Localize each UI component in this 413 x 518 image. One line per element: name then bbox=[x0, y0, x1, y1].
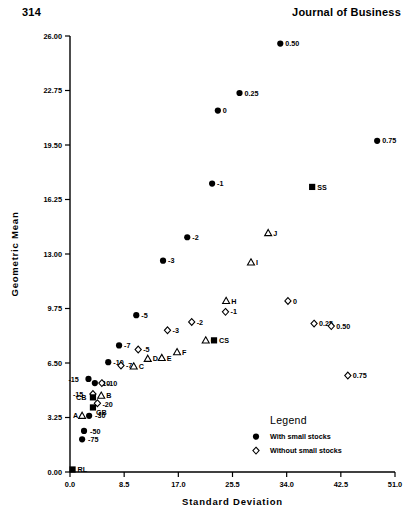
data-point-label: J bbox=[273, 229, 277, 238]
data-point-filled-circle bbox=[277, 40, 283, 46]
data-point-label: -1 bbox=[217, 179, 223, 188]
data-point-open-triangle bbox=[98, 392, 105, 398]
legend-title: Legend bbox=[270, 414, 307, 426]
data-point-filled-circle bbox=[160, 258, 166, 264]
legend-entry-label: With small stocks bbox=[270, 432, 331, 441]
x-tick-label: 51.0 bbox=[388, 480, 402, 489]
data-point-filled-circle bbox=[184, 234, 190, 240]
chart-canvas: 0.003.256.509.7513.0016.2519.5022.7526.0… bbox=[0, 0, 413, 518]
data-point-label: -5 bbox=[141, 311, 147, 320]
data-point-filled-square bbox=[309, 184, 315, 190]
y-tick-label: 16.25 bbox=[44, 195, 63, 204]
data-point-label: 0 bbox=[223, 106, 227, 115]
data-point-open-triangle bbox=[247, 259, 254, 265]
data-point-label: A bbox=[73, 411, 78, 420]
data-point-label: -2 bbox=[197, 318, 203, 327]
y-axis-title: Geometric Mean bbox=[9, 211, 20, 296]
x-tick-label: 17.0 bbox=[171, 480, 185, 489]
y-tick-label: 13.00 bbox=[44, 250, 63, 259]
y-tick-label: 0.00 bbox=[48, 468, 62, 477]
data-point-label: D bbox=[153, 354, 158, 363]
data-point-filled-circle bbox=[105, 359, 111, 365]
data-point-label: CS bbox=[219, 336, 229, 345]
data-point-open-triangle bbox=[144, 355, 151, 361]
data-point-filled-circle bbox=[374, 138, 380, 144]
data-point-filled-circle bbox=[133, 312, 139, 318]
data-point-label: 0.75 bbox=[353, 371, 367, 380]
x-tick-label: 8.5 bbox=[119, 480, 129, 489]
data-point-filled-circle bbox=[79, 436, 85, 442]
x-axis-title: Standard Deviation bbox=[182, 496, 283, 507]
data-point-filled-circle bbox=[236, 90, 242, 96]
data-point-label: B bbox=[106, 391, 111, 400]
data-point-label: C bbox=[139, 362, 144, 371]
data-point-filled-circle bbox=[209, 180, 215, 186]
data-point-label: CB bbox=[76, 393, 86, 402]
x-tick-label: 25.5 bbox=[225, 480, 239, 489]
data-point-label: -10 bbox=[107, 379, 117, 388]
y-tick-label: 22.75 bbox=[44, 86, 63, 95]
scatter-plot: 0.003.256.509.7513.0016.2519.5022.7526.0… bbox=[0, 0, 413, 518]
data-point-filled-circle bbox=[85, 376, 91, 382]
data-point-label: SS bbox=[317, 183, 327, 192]
page-root: 314 Journal of Business 0.003.256.509.75… bbox=[0, 0, 413, 518]
data-point-label: 0.50 bbox=[336, 322, 350, 331]
data-point-open-triangle bbox=[79, 412, 86, 418]
data-point-filled-circle bbox=[81, 428, 87, 434]
y-tick-label: 26.00 bbox=[44, 32, 63, 41]
data-point-label: E bbox=[167, 354, 172, 363]
data-point-open-triangle bbox=[158, 354, 165, 360]
data-point-open-triangle bbox=[223, 297, 230, 303]
y-tick-label: 6.50 bbox=[48, 359, 62, 368]
data-point-filled-circle bbox=[92, 380, 98, 386]
legend-marker-filled-circle bbox=[253, 434, 259, 440]
data-point-open-diamond bbox=[135, 346, 141, 353]
data-point-open-diamond bbox=[189, 319, 195, 326]
data-point-label: RL bbox=[78, 465, 88, 474]
data-point-open-diamond bbox=[311, 320, 317, 327]
data-point-label: I bbox=[256, 258, 258, 267]
data-point-label: 0.25 bbox=[245, 89, 259, 98]
legend-marker-open-diamond bbox=[253, 447, 259, 454]
x-tick-label: 34.0 bbox=[279, 480, 293, 489]
data-point-filled-square bbox=[69, 466, 75, 472]
data-point-label: 0 bbox=[293, 297, 297, 306]
data-point-filled-circle bbox=[86, 413, 92, 419]
y-tick-label: 3.25 bbox=[48, 413, 62, 422]
data-point-label: -2 bbox=[192, 233, 198, 242]
data-point-label: -15 bbox=[68, 375, 78, 384]
data-point-open-diamond bbox=[164, 327, 170, 334]
x-tick-label: 0.0 bbox=[65, 480, 75, 489]
data-point-label: -1 bbox=[230, 307, 236, 316]
data-point-label: 0.75 bbox=[382, 136, 396, 145]
data-point-label: -3 bbox=[168, 256, 174, 265]
data-point-label: -5 bbox=[143, 345, 149, 354]
x-tick-label: 42.5 bbox=[334, 480, 348, 489]
data-point-filled-circle bbox=[116, 342, 122, 348]
data-point-open-triangle bbox=[202, 337, 209, 343]
y-tick-label: 19.50 bbox=[44, 141, 63, 150]
data-point-label: -75 bbox=[88, 435, 98, 444]
data-point-open-triangle bbox=[174, 349, 181, 355]
y-tick-label: 9.75 bbox=[48, 304, 62, 313]
data-point-filled-square bbox=[211, 337, 217, 343]
data-point-label: 0.50 bbox=[285, 39, 299, 48]
data-point-label: H bbox=[231, 297, 236, 306]
data-point-open-diamond bbox=[222, 308, 228, 315]
data-point-filled-circle bbox=[215, 108, 221, 114]
data-point-filled-square bbox=[90, 394, 96, 400]
data-point-open-diamond bbox=[345, 372, 351, 379]
data-point-label: -3 bbox=[173, 326, 179, 335]
data-point-open-diamond bbox=[285, 298, 291, 305]
data-point-label: -7 bbox=[124, 341, 130, 350]
data-point-open-triangle bbox=[265, 229, 272, 235]
legend-entry-label: Without small stocks bbox=[270, 446, 342, 455]
data-point-label: F bbox=[182, 348, 187, 357]
data-point-label: GB bbox=[96, 408, 107, 417]
